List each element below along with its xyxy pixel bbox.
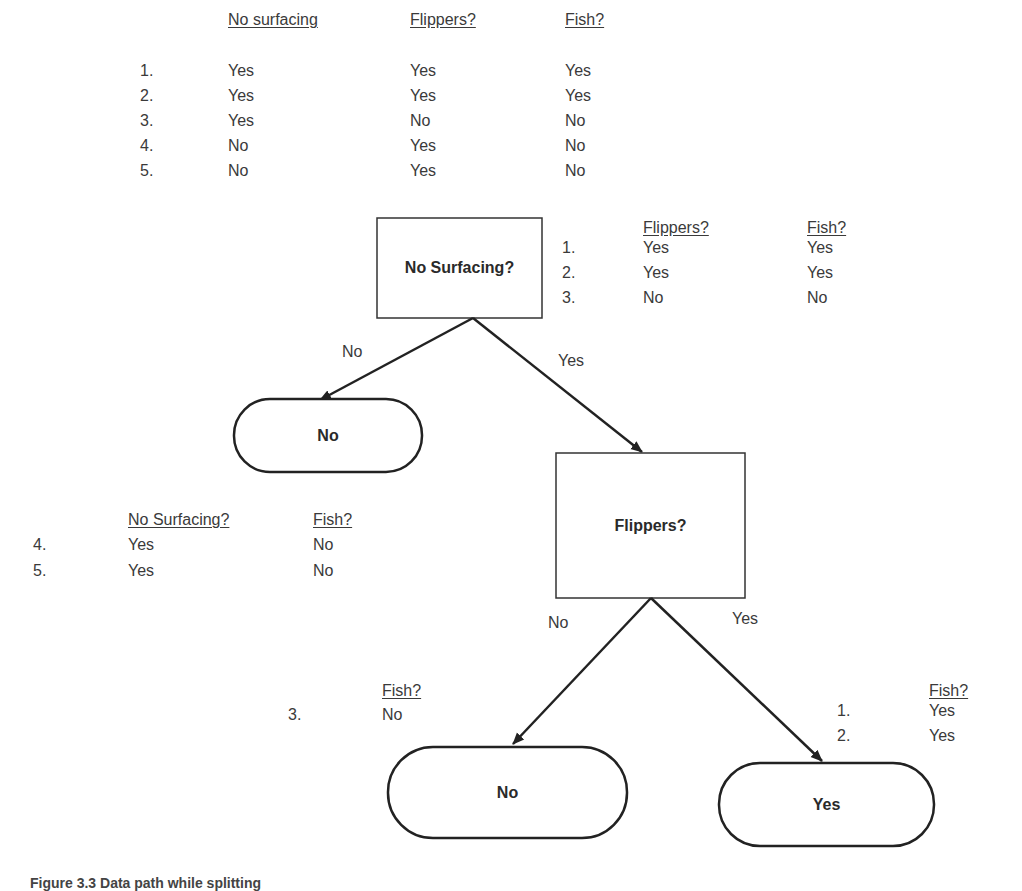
leaf-flippers-yes-label: Yes: [719, 763, 934, 846]
top-table-cell: No: [565, 112, 585, 130]
no-branch-header-fish: Fish?: [313, 511, 352, 529]
top-table-header-fish: Fish?: [565, 11, 604, 29]
no-branch-header-no-surfacing: No Surfacing?: [128, 511, 229, 529]
edge-label-flippers-yes: Yes: [732, 610, 758, 628]
flippers-no-cell: No: [382, 706, 402, 724]
yes-branch-cell: No: [807, 289, 827, 307]
edge-label-root-no: No: [342, 343, 362, 361]
no-branch-row-num: 4.: [33, 536, 46, 554]
leaf-root-no-label: No: [234, 399, 422, 472]
top-table-cell: Yes: [228, 62, 254, 80]
edge-label-flippers-no: No: [548, 614, 568, 632]
edge-flippers-no: [513, 598, 651, 744]
yes-branch-header-fish: Fish?: [807, 219, 846, 237]
flippers-yes-cell: Yes: [929, 702, 955, 720]
flippers-yes-cell: Yes: [929, 727, 955, 745]
yes-branch-cell: Yes: [807, 264, 833, 282]
yes-branch-row-num: 3.: [562, 289, 575, 307]
yes-branch-cell: Yes: [643, 264, 669, 282]
no-branch-cell: Yes: [128, 562, 154, 580]
top-table-row-num: 5.: [140, 162, 153, 180]
edge-label-root-yes: Yes: [558, 352, 584, 370]
root-node-label: No Surfacing?: [377, 218, 542, 318]
top-table-header-no-surfacing: No surfacing: [228, 11, 318, 29]
no-branch-cell: No: [313, 562, 333, 580]
top-table-cell: Yes: [565, 62, 591, 80]
flippers-yes-row-num: 1.: [837, 702, 850, 720]
figure-caption: Figure 3.3 Data path while splitting: [30, 875, 261, 891]
top-table-cell: No: [410, 112, 430, 130]
no-branch-cell: No: [313, 536, 333, 554]
flippers-yes-row-num: 2.: [837, 727, 850, 745]
top-table-row-num: 1.: [140, 62, 153, 80]
top-table-cell: Yes: [410, 162, 436, 180]
yes-branch-cell: Yes: [643, 239, 669, 257]
top-table-cell: No: [565, 137, 585, 155]
yes-branch-cell: No: [643, 289, 663, 307]
top-table-cell: No: [565, 162, 585, 180]
top-table-cell: Yes: [228, 87, 254, 105]
top-table-cell: Yes: [410, 87, 436, 105]
top-table-cell: Yes: [228, 112, 254, 130]
edge-root-yes: [473, 318, 642, 452]
flippers-node-label: Flippers?: [556, 453, 745, 598]
yes-branch-row-num: 1.: [562, 239, 575, 257]
top-table-row-num: 3.: [140, 112, 153, 130]
no-branch-cell: Yes: [128, 536, 154, 554]
flippers-no-row-num: 3.: [288, 706, 301, 724]
top-table-cell: Yes: [565, 87, 591, 105]
top-table-cell: Yes: [410, 137, 436, 155]
flippers-yes-header-fish: Fish?: [929, 682, 968, 700]
no-branch-row-num: 5.: [33, 562, 46, 580]
top-table-header-flippers: Flippers?: [410, 11, 476, 29]
top-table-cell: No: [228, 137, 248, 155]
leaf-flippers-no-label: No: [388, 747, 627, 838]
top-table-row-num: 2.: [140, 87, 153, 105]
yes-branch-header-flippers: Flippers?: [643, 219, 709, 237]
yes-branch-cell: Yes: [807, 239, 833, 257]
top-table-row-num: 4.: [140, 137, 153, 155]
top-table-cell: No: [228, 162, 248, 180]
flippers-no-header-fish: Fish?: [382, 682, 421, 700]
top-table-cell: Yes: [410, 62, 436, 80]
yes-branch-row-num: 2.: [562, 264, 575, 282]
